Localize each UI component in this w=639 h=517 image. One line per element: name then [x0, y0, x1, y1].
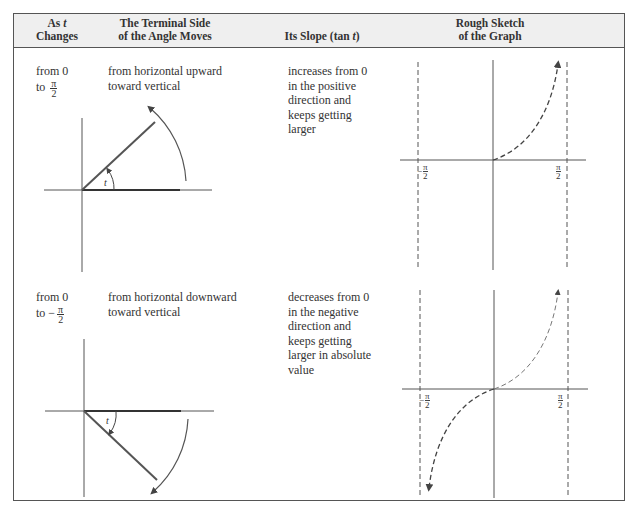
label-den: 2	[558, 400, 563, 410]
row2-angle-diagram	[45, 339, 214, 497]
label-den: 2	[423, 171, 428, 181]
angle-arc-icon	[110, 411, 116, 433]
minus-sign: −	[417, 167, 422, 175]
row1-angle-label: t	[104, 176, 107, 191]
row1-angle-diagram	[44, 108, 212, 272]
tan-curve-increasing	[493, 64, 558, 160]
angle-arc-icon	[108, 170, 114, 190]
minus-sign: −	[419, 396, 424, 404]
tan-curve-faint-positive	[494, 292, 558, 389]
row1-label-neg-pi-over-2: − π2	[423, 163, 428, 180]
row2-label-pi-over-2: π2	[558, 392, 563, 409]
row2-angle-label: t	[106, 414, 109, 429]
terminal-side	[82, 122, 155, 190]
row2-label-neg-pi-over-2: − π2	[425, 392, 430, 409]
terminal-side	[84, 411, 157, 480]
rotation-arrow-icon	[153, 419, 188, 492]
label-den: 2	[425, 400, 430, 410]
diagram-layer	[0, 0, 639, 517]
rotation-arrow-icon	[150, 108, 186, 181]
row1-label-pi-over-2: π2	[556, 163, 561, 180]
label-den: 2	[556, 171, 561, 181]
tan-curve-decreasing	[429, 389, 494, 488]
